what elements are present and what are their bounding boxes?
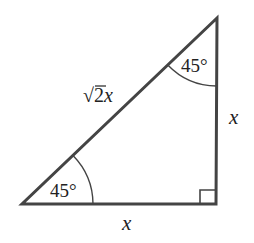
bottom-left-angle-label: 45°	[50, 180, 77, 201]
hypotenuse-variable: x	[103, 84, 113, 106]
right-side-label: x	[228, 105, 239, 129]
triangle-svg: 45° 45° √2x x x	[0, 0, 254, 243]
bottom-side-label: x	[121, 211, 132, 235]
triangle-outline	[22, 18, 217, 204]
hypotenuse-label: √2x	[83, 84, 113, 106]
triangle-diagram: 45° 45° √2x x x	[0, 0, 254, 243]
right-angle-marker	[200, 190, 216, 204]
hypotenuse-radical: √2	[83, 84, 104, 106]
top-angle-label: 45°	[181, 55, 208, 76]
